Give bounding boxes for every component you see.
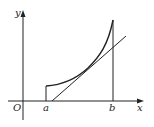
function-curve	[46, 20, 113, 86]
diagram-canvas: y x O a b	[0, 0, 154, 127]
y-axis-label: y	[14, 7, 21, 18]
a-label: a	[43, 102, 49, 113]
y-axis-arrow-icon	[21, 10, 26, 17]
origin-label: O	[13, 102, 21, 113]
b-label: b	[109, 102, 115, 113]
tangent-line	[52, 36, 126, 101]
x-axis-label: x	[137, 102, 143, 113]
